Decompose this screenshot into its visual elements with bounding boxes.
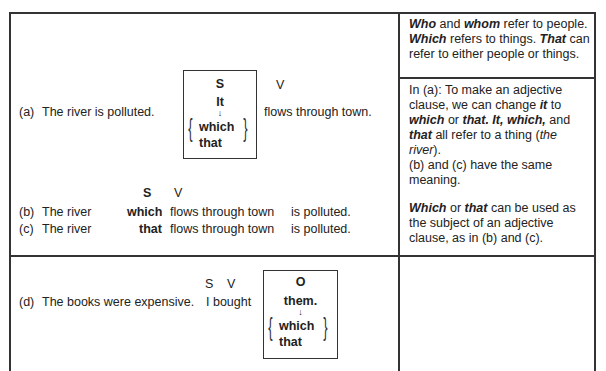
term-that-it-which: that. It, which, — [462, 113, 545, 127]
object-box-d: O them. ↓ { which that } — [263, 270, 338, 359]
example-d-subject-verb: I bought — [206, 295, 251, 309]
example-b-head: The river — [42, 205, 91, 219]
term-which: Which — [409, 201, 447, 215]
term-which: which — [409, 113, 444, 127]
note-text: ). — [433, 143, 441, 157]
note-text: (b) and (c) have the same meaning. — [409, 158, 552, 187]
alt-which: which — [199, 119, 234, 135]
note-text: to — [547, 98, 561, 112]
example-label-a: (a) — [19, 105, 34, 119]
alt-that: that — [199, 135, 222, 151]
example-c-relative: that — [139, 222, 162, 236]
example-a-rest: flows through town. — [264, 105, 372, 119]
example-b-relative: which — [127, 205, 162, 219]
example-c-head: The river — [42, 222, 91, 236]
example-b-end: is polluted. — [291, 205, 351, 219]
example-a-sentence: The river is polluted. — [42, 105, 155, 119]
term-that: that — [409, 128, 432, 142]
note-text: and — [436, 17, 464, 31]
verb-marker: V — [227, 277, 235, 291]
example-label-b: (b) — [19, 205, 34, 219]
subject-box-a: S It ↓ { which that } — [183, 70, 257, 159]
term-who: Who — [409, 17, 436, 31]
pronoun-them: them. — [264, 294, 337, 308]
note-text: and — [546, 113, 570, 127]
term-which: Which — [409, 32, 447, 46]
note-subject-usage: Which or that can be used as the subject… — [409, 201, 591, 246]
table-column-divider — [398, 12, 400, 371]
note-who-whom-which: Who and whom refer to people. Which refe… — [409, 17, 591, 62]
notes-row-divider — [398, 77, 595, 79]
table-row-divider — [9, 255, 595, 257]
note-text: all refer to a thing ( — [432, 128, 540, 142]
alt-which: which — [279, 318, 314, 334]
example-b-clause: flows through town — [170, 205, 274, 219]
table-left-border — [9, 12, 11, 371]
table-right-border — [594, 12, 596, 371]
verb-marker: V — [174, 186, 182, 200]
alt-that: that — [279, 334, 302, 350]
subject-marker: S — [205, 277, 213, 291]
example-label-c: (c) — [19, 222, 34, 236]
pronoun-it: It — [184, 95, 256, 109]
right-brace-icon: } — [243, 113, 247, 143]
note-text: refers to things. — [447, 32, 540, 46]
example-label-d: (d) — [19, 295, 34, 309]
term-whom: whom — [464, 17, 500, 31]
right-brace-icon: } — [323, 312, 327, 342]
term-that: That — [540, 32, 566, 46]
object-marker: O — [264, 275, 337, 289]
table-top-border — [9, 12, 595, 14]
example-d-sentence: The books were expensive. — [42, 295, 194, 309]
note-text: or — [444, 113, 462, 127]
verb-marker: V — [276, 78, 284, 92]
note-text: refer to people. — [500, 17, 588, 31]
term-that: that — [465, 201, 488, 215]
left-brace-icon: { — [268, 312, 272, 342]
note-change-it: In (a): To make an adjective clause, we … — [409, 83, 591, 188]
note-text: or — [447, 201, 465, 215]
left-brace-icon: { — [188, 113, 192, 143]
example-c-clause: flows through town — [170, 222, 274, 236]
subject-marker: S — [184, 77, 256, 91]
example-c-end: is polluted. — [291, 222, 351, 236]
subject-marker: S — [143, 186, 151, 200]
